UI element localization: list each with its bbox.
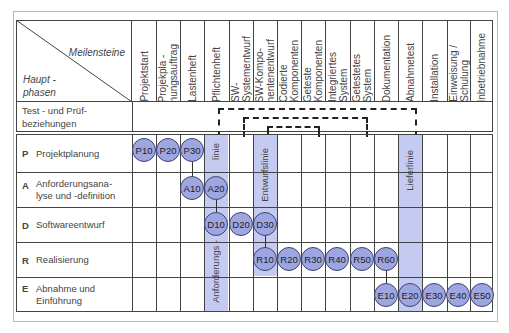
milestone-label: Dokumentation — [381, 31, 392, 102]
node-r20: R20 — [277, 247, 301, 271]
grid-line — [374, 134, 375, 312]
node-a20: A20 — [204, 176, 228, 200]
entwurfslinie-label: Entwurfslinie — [259, 148, 270, 202]
grid-line — [325, 134, 326, 312]
phase-label: Softwareentwurf — [36, 219, 105, 231]
phase-key: R — [22, 255, 36, 266]
phase-label: Projektplanung — [36, 148, 99, 160]
milestone-pflichtenheft: Pflichtenheft — [204, 20, 229, 102]
milestone-label: Lastenheft — [187, 51, 198, 102]
test-row-label: Test - und Prüf- beziehungen — [22, 104, 87, 130]
milestones-label: Meilensteine — [69, 47, 125, 58]
phase-key: A — [22, 180, 36, 191]
milestone-sw-systementwurf: SW-Systementwurf — [229, 20, 253, 102]
grid-line — [180, 134, 181, 312]
milestone-geteste-komponenten: Geteste Komponenten — [301, 20, 325, 102]
phases-label: Haupt - phasen — [23, 73, 56, 99]
grid-line — [447, 134, 448, 312]
phase-label: Abnahme und Einführung — [36, 283, 95, 307]
node-a10: A10 — [180, 176, 204, 200]
node-r60: R60 — [374, 247, 398, 271]
milestone-getestetes-system: Getestetes System — [350, 20, 374, 102]
milestone-lastenheft: Lastenheft — [180, 20, 204, 102]
milestone-label: Einweisung / Schulung — [448, 41, 470, 102]
milestone-integriertes-system: Integriertes System — [325, 20, 350, 102]
node-r40: R40 — [325, 247, 349, 271]
milestone-codierte-komponenten: Codierte Komponenten — [277, 20, 301, 102]
grid-line — [374, 20, 375, 102]
grid-line — [253, 20, 254, 102]
milestone-projektplanungsauftrag: Projekpla - nungsauftrag — [156, 20, 180, 102]
milestone-inbetriebnahme: Inbetriebnahme — [470, 20, 493, 102]
node-e10: E10 — [374, 283, 398, 307]
grid-line — [350, 20, 351, 102]
grid-line — [470, 134, 471, 312]
grid-line — [398, 20, 399, 102]
milestone-label: SW-Systementwurf — [230, 20, 252, 102]
grid-line — [204, 20, 205, 102]
milestone-label: Projektstart — [139, 47, 150, 102]
node-e40: E40 — [446, 283, 470, 307]
milestone-label: Pflichtenheft — [211, 43, 222, 102]
node-e50: E50 — [470, 283, 494, 307]
grid-line — [180, 20, 181, 102]
milestone-sw-komponentenentwurf: SW-Kompo- nentenentwurf — [253, 20, 277, 102]
grid-line — [229, 20, 230, 102]
node-p30: P30 — [180, 138, 204, 162]
node-r30: R30 — [301, 247, 325, 271]
milestone-label: Geteste Komponenten — [302, 36, 324, 102]
grid-line — [422, 20, 423, 102]
grid-line — [301, 20, 302, 102]
phase-key: P — [22, 148, 36, 159]
node-d20: D20 — [229, 212, 253, 236]
milestone-projektstart: Projektstart — [132, 20, 156, 102]
phase-row-r: R Realisierung — [22, 243, 89, 277]
phase-row-a: A Anforderungsana- lyse und -definition — [22, 173, 115, 207]
grid-line — [398, 134, 399, 312]
grid-line — [277, 134, 278, 312]
grid-line — [422, 134, 423, 312]
grid-line — [156, 134, 157, 312]
grid-line — [277, 20, 278, 102]
node-d10: D10 — [204, 212, 228, 236]
anforderungslinie-label-bottom: Anforderungs - — [210, 240, 221, 303]
lieferlinie-label: Lieferlinie — [404, 150, 415, 191]
phase-row-p: P Projektplanung — [22, 135, 99, 172]
milestone-label: Abnahmetest — [405, 39, 416, 102]
grid-line — [132, 134, 133, 312]
node-p10: P10 — [132, 138, 156, 162]
milestone-einweisung-schulung: Einweisung / Schulung — [447, 20, 470, 102]
milestone-dokumentation: Dokumentation — [374, 20, 398, 102]
phase-label: Realisierung — [36, 254, 89, 266]
grid-line — [301, 134, 302, 312]
node-e20: E20 — [398, 283, 422, 307]
grid-line — [132, 101, 133, 132]
grid-line — [156, 20, 157, 102]
node-d30: D30 — [253, 212, 277, 236]
milestone-label: Getestetes System — [351, 50, 373, 102]
node-e30: E30 — [422, 283, 446, 307]
node-r10: R10 — [253, 247, 277, 271]
node-p20: P20 — [156, 138, 180, 162]
anforderungslinie-label-top: linie — [210, 143, 221, 160]
milestone-label: Projekpla - nungsauftrag — [157, 40, 179, 102]
milestone-label: Installation — [429, 50, 440, 102]
milestone-installation: Installation — [422, 20, 447, 102]
phase-key: E — [22, 283, 36, 294]
phase-key: D — [22, 220, 36, 231]
milestone-label: Codierte Komponenten — [278, 36, 300, 102]
phase-row-e: E Abnahme und Einführung — [22, 278, 95, 312]
grid-line — [325, 20, 326, 102]
milestone-label: Integriertes System — [327, 48, 349, 102]
grid-line — [470, 20, 471, 102]
phase-row-d: D Softwareentwurf — [22, 208, 105, 242]
milestone-label: Inbetriebnahme — [476, 29, 487, 103]
phase-label: Anforderungsana- lyse und -definition — [36, 178, 115, 202]
milestone-label: SW-Kompo- nentenentwurf — [254, 35, 276, 102]
grid-line — [447, 20, 448, 102]
grid-line — [350, 134, 351, 312]
header-corner-cell: Meilensteine Haupt - phasen — [16, 20, 132, 102]
milestone-abnahmetest: Abnahmetest — [398, 20, 422, 102]
node-r50: R50 — [350, 247, 374, 271]
